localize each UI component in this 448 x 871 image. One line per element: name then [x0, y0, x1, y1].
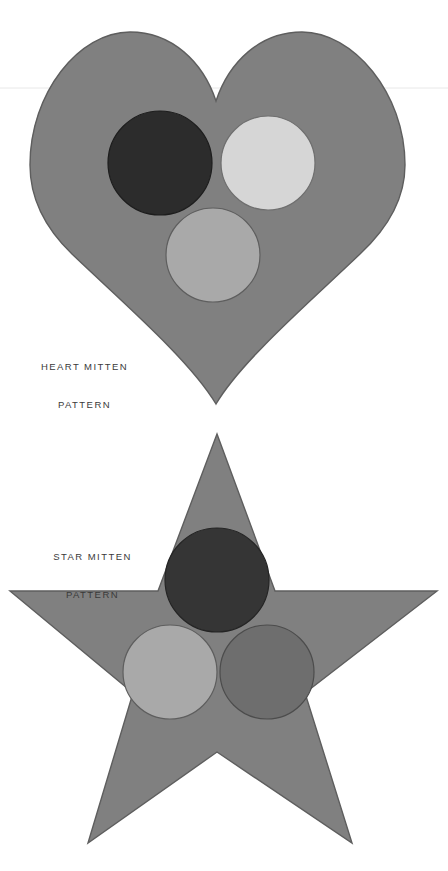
- star-pattern-label: STAR MITTEN PATTERN: [20, 526, 165, 626]
- pattern-sheet: HEART MITTEN PATTERN STAR MITTEN PATTERN: [0, 0, 448, 871]
- heart-pattern-label-line2: PATTERN: [12, 399, 157, 412]
- star-dark-circle: [165, 528, 269, 632]
- star-pattern-label-line2: PATTERN: [20, 589, 165, 602]
- heart-light-circle: [221, 116, 315, 210]
- heart-pattern-label: HEART MITTEN PATTERN: [12, 336, 157, 436]
- star-light-circle: [123, 625, 217, 719]
- heart-dark-circle: [108, 111, 212, 215]
- star-shadow-circle: [220, 625, 314, 719]
- heart-medium-circle: [166, 208, 260, 302]
- heart-pattern-label-line1: HEART MITTEN: [12, 361, 157, 374]
- star-mitten-figure: [10, 434, 437, 843]
- star-pattern-label-line1: STAR MITTEN: [20, 551, 165, 564]
- star-body-shape: [10, 434, 437, 843]
